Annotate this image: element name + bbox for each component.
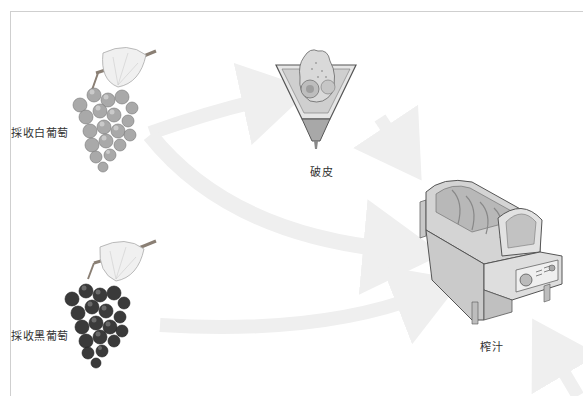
label-pressing: 榨汁 — [480, 338, 503, 354]
label-crushing: 破皮 — [310, 163, 333, 179]
arrow-offscreen-to-press — [552, 352, 578, 396]
label-black-grapes: 採收黑葡萄 — [11, 327, 69, 343]
crusher-illustration — [272, 47, 362, 155]
arrow-black-to-press — [160, 295, 423, 327]
white-grapes-illustration — [58, 45, 168, 175]
label-white-grapes: 採收白葡萄 — [11, 124, 69, 140]
press-machine-illustration — [412, 172, 572, 330]
arrow-crush-to-press — [380, 118, 400, 148]
arrow-white-to-crush — [150, 98, 270, 133]
black-grapes-illustration — [58, 237, 168, 372]
